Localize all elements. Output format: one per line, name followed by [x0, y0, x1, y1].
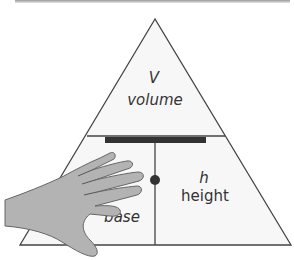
volume-symbol: V [149, 69, 161, 87]
divide-bar-icon [105, 137, 206, 143]
formula-triangle-diagram: V volume h height base [0, 0, 294, 260]
volume-label: volume [127, 91, 183, 109]
multiply-dot-icon [150, 175, 160, 185]
height-label: height [181, 187, 229, 205]
height-symbol: h [199, 169, 209, 187]
